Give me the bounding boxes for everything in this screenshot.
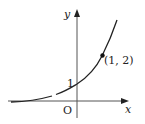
y-axis-arrow-icon xyxy=(74,9,80,17)
exponential-curve xyxy=(11,20,117,102)
y-axis-label: y xyxy=(63,8,71,21)
origin-label: O xyxy=(63,104,72,117)
y-intercept-label: 1 xyxy=(67,77,74,90)
point-label: (1, 2) xyxy=(104,54,134,67)
exponential-graph: (1, 2) 1 O x y xyxy=(0,0,145,124)
x-axis-label: x xyxy=(125,103,132,116)
